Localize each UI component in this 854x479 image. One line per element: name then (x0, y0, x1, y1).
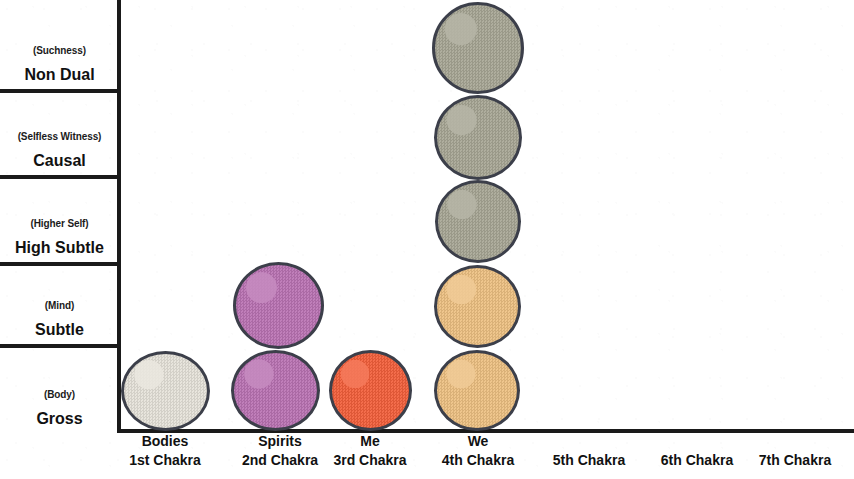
x-category-7th-chakra: 7th Chakra (735, 434, 854, 468)
bubble-we-causal[interactable] (434, 95, 522, 180)
x-category-1st-chakra-chakra: 1st Chakra (105, 453, 225, 468)
x-category-4th-chakra-name: We (418, 434, 538, 453)
x-category-1st-chakra: Bodies 1st Chakra (105, 434, 225, 468)
bubble-bodies-gross[interactable] (121, 351, 210, 431)
x-category-3rd-chakra: Me 3rd Chakra (310, 434, 430, 468)
chart-canvas: (Suchness) Non Dual (Selfless Witness) C… (0, 0, 854, 479)
bubble-spirits-gross[interactable] (231, 350, 320, 431)
x-category-3rd-chakra-name: Me (310, 434, 430, 453)
x-category-5th-chakra: 5th Chakra (529, 434, 649, 468)
plot-area (0, 0, 854, 433)
bubble-we-gross[interactable] (434, 350, 520, 431)
x-category-1st-chakra-name: Bodies (105, 434, 225, 453)
x-category-7th-chakra-chakra: 7th Chakra (735, 453, 854, 468)
x-category-3rd-chakra-chakra: 3rd Chakra (310, 453, 430, 468)
bubble-spirits-subtle[interactable] (233, 262, 324, 349)
bubble-me-gross[interactable] (329, 350, 412, 431)
x-category-5th-chakra-name (529, 434, 649, 453)
bubble-we-subtle[interactable] (434, 265, 521, 348)
x-category-5th-chakra-chakra: 5th Chakra (529, 453, 649, 468)
x-axis-category-labels: Bodies 1st Chakra Spirits 2nd Chakra Me … (0, 434, 854, 479)
x-category-4th-chakra: We 4th Chakra (418, 434, 538, 468)
x-category-4th-chakra-chakra: 4th Chakra (418, 453, 538, 468)
x-category-7th-chakra-name (735, 434, 854, 453)
bubble-we-high-subtle[interactable] (435, 180, 521, 263)
bubble-we-non-dual[interactable] (432, 2, 524, 94)
